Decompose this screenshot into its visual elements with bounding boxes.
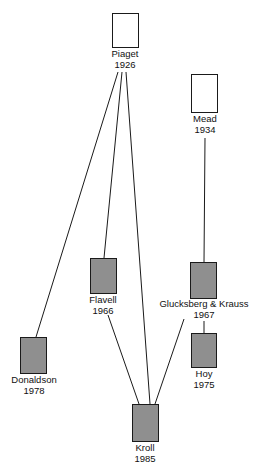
node-label-glucksberg-krauss: Glucksberg & Krauss 1967 bbox=[159, 299, 248, 320]
node-year: 1934 bbox=[193, 125, 217, 136]
node-box-glucksberg-krauss bbox=[190, 262, 217, 299]
edge-piaget-kroll bbox=[126, 72, 150, 404]
node-name: Donaldson bbox=[11, 375, 56, 386]
node-name: Kroll bbox=[134, 443, 155, 454]
edge-piaget-flavell bbox=[104, 72, 122, 258]
node-label-donaldson: Donaldson 1978 bbox=[11, 375, 56, 396]
node-year: 1978 bbox=[11, 386, 56, 397]
edge-glucksberg-kroll bbox=[155, 319, 184, 404]
node-label-kroll: Kroll 1985 bbox=[134, 443, 155, 464]
node-name: Piaget bbox=[112, 49, 139, 60]
node-name: Glucksberg & Krauss bbox=[159, 299, 248, 310]
node-label-flavell: Flavell 1966 bbox=[89, 295, 116, 316]
node-name: Hoy bbox=[193, 369, 214, 380]
node-name: Mead bbox=[193, 114, 217, 125]
node-year: 1926 bbox=[112, 60, 139, 71]
node-year: 1985 bbox=[134, 454, 155, 465]
node-box-donaldson bbox=[20, 337, 47, 374]
node-box-mead bbox=[191, 74, 218, 113]
node-year: 1975 bbox=[193, 380, 214, 391]
node-year: 1967 bbox=[159, 310, 248, 321]
node-box-flavell bbox=[90, 258, 117, 294]
edge-flavell-kroll bbox=[108, 315, 139, 404]
node-label-mead: Mead 1934 bbox=[193, 114, 217, 135]
node-box-kroll bbox=[132, 404, 159, 442]
node-box-piaget bbox=[112, 13, 139, 48]
node-label-hoy: Hoy 1975 bbox=[193, 369, 214, 390]
node-box-hoy bbox=[191, 333, 217, 368]
connector-lines bbox=[0, 0, 259, 471]
node-year: 1966 bbox=[89, 306, 116, 317]
node-label-piaget: Piaget 1926 bbox=[112, 49, 139, 70]
node-name: Flavell bbox=[89, 295, 116, 306]
edge-mead-glucksberg bbox=[204, 138, 205, 262]
